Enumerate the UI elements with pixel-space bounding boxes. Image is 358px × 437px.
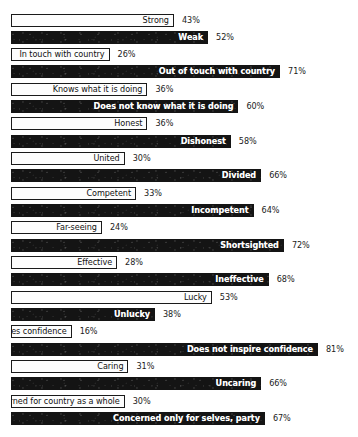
bar-value-label: 16% — [80, 326, 98, 337]
bar-value-label: 58% — [239, 136, 257, 147]
bar-value-label: 71% — [288, 66, 306, 77]
bar-label: Uncaring — [216, 379, 262, 388]
chart-row: Lucky53% — [0, 291, 358, 304]
chart-row: Strong43% — [0, 14, 358, 27]
bar-value-label: 66% — [269, 378, 287, 389]
chart-row: Caring31% — [0, 360, 358, 373]
bar-value-label: 30% — [133, 153, 151, 164]
chart-row: Effective28% — [0, 256, 358, 269]
bar-value-label: 60% — [246, 101, 264, 112]
bar-caring: Caring — [11, 360, 128, 373]
chart-row: Incompetent64% — [0, 204, 358, 217]
bar-value-label: 26% — [118, 49, 136, 60]
bar-inspires-confidence: Inspires confidence — [11, 325, 72, 338]
bar-does-not-inspire-confidence: Does not inspire confidence — [11, 343, 318, 356]
bar-label: Incompetent — [191, 206, 253, 215]
bar-label: United — [93, 154, 123, 163]
bar-label: Inspires confidence — [11, 327, 71, 336]
bar-does-not-know-what-it-is-doing: Does not know what it is doing — [11, 100, 238, 113]
bar-value-label: 24% — [110, 222, 128, 233]
bar-value-label: 68% — [277, 274, 295, 285]
bar-value-label: 66% — [269, 170, 287, 181]
bar-value-label: 31% — [136, 361, 154, 372]
chart-row: Competent33% — [0, 187, 358, 200]
chart-row: Dishonest58% — [0, 135, 358, 148]
bar-incompetent: Incompetent — [11, 204, 254, 217]
chart-row: Does not inspire confidence81% — [0, 343, 358, 356]
bar-label: Effective — [77, 258, 116, 267]
bar-value-label: 52% — [216, 32, 234, 43]
bar-value-label: 53% — [220, 292, 238, 303]
bar-label: In touch with country — [19, 50, 108, 59]
chart-row: Shortsighted72% — [0, 239, 358, 252]
bar-concerned-for-country-as-a-whole: Concerned for country as a whole — [11, 395, 125, 408]
bar-value-label: 72% — [292, 240, 310, 251]
bar-label: Does not inspire confidence — [187, 345, 318, 354]
bar-label: Far-seeing — [56, 223, 101, 232]
bar-label: Divided — [222, 171, 261, 180]
chart-row: Honest36% — [0, 117, 358, 130]
bar-unlucky: Unlucky — [11, 308, 155, 321]
bar-label: Out of touch with country — [159, 67, 280, 76]
bar-label: Ineffective — [215, 275, 268, 284]
bar-lucky: Lucky — [11, 291, 212, 304]
bar-label: Knows what it is doing — [53, 85, 147, 94]
bar-value-label: 81% — [326, 344, 344, 355]
chart-row: In touch with country26% — [0, 48, 358, 61]
bar-label: Dishonest — [181, 137, 231, 146]
chart-row: Concerned only for selves, party67% — [0, 412, 358, 425]
chart-row: Concerned for country as a whole30% — [0, 395, 358, 408]
chart-row: Out of touch with country71% — [0, 65, 358, 78]
bar-weak: Weak — [11, 31, 208, 44]
bar-label: Lucky — [184, 293, 211, 302]
bar-value-label: 64% — [262, 205, 280, 216]
chart-row: Unlucky38% — [0, 308, 358, 321]
bar-value-label: 38% — [163, 309, 181, 320]
chart-row: Inspires confidence16% — [0, 325, 358, 338]
chart-row: Weak52% — [0, 31, 358, 44]
bar-competent: Competent — [11, 187, 136, 200]
bar-label: Concerned only for selves, party — [113, 414, 265, 423]
survey-bar-chart: Strong43%Weak52%In touch with country26%… — [0, 0, 358, 437]
bar-divided: Divided — [11, 169, 261, 182]
bar-label: Competent — [86, 189, 135, 198]
bar-shortsighted: Shortsighted — [11, 239, 284, 252]
bar-knows-what-it-is-doing: Knows what it is doing — [11, 83, 147, 96]
chart-row: Ineffective68% — [0, 273, 358, 286]
bar-label: Concerned for country as a whole — [11, 397, 124, 406]
bar-effective: Effective — [11, 256, 117, 269]
bar-far-seeing: Far-seeing — [11, 221, 102, 234]
bar-label: Caring — [97, 362, 127, 371]
bar-label: Shortsighted — [220, 241, 284, 250]
bar-value-label: 43% — [182, 15, 200, 26]
chart-row: Uncaring66% — [0, 377, 358, 390]
bar-label: Weak — [178, 33, 208, 42]
bar-out-of-touch-with-country: Out of touch with country — [11, 65, 280, 78]
bar-value-label: 33% — [144, 188, 162, 199]
chart-row: Divided66% — [0, 169, 358, 182]
chart-row: Far-seeing24% — [0, 221, 358, 234]
bar-label: Strong — [143, 16, 173, 25]
chart-row: Does not know what it is doing60% — [0, 100, 358, 113]
bar-value-label: 30% — [133, 396, 151, 407]
bar-honest: Honest — [11, 117, 147, 130]
bar-label: Honest — [114, 119, 146, 128]
bar-dishonest: Dishonest — [11, 135, 231, 148]
bar-uncaring: Uncaring — [11, 377, 261, 390]
bar-value-label: 36% — [155, 118, 173, 129]
bar-strong: Strong — [11, 14, 174, 27]
chart-row: United30% — [0, 152, 358, 165]
bar-label: Unlucky — [114, 310, 155, 319]
bar-value-label: 28% — [125, 257, 143, 268]
bar-label: Does not know what it is doing — [94, 102, 239, 111]
bar-concerned-only-for-selves-party: Concerned only for selves, party — [11, 412, 265, 425]
chart-row: Knows what it is doing36% — [0, 83, 358, 96]
bar-in-touch-with-country: In touch with country — [11, 48, 110, 61]
bar-united: United — [11, 152, 125, 165]
bar-value-label: 36% — [155, 84, 173, 95]
bar-ineffective: Ineffective — [11, 273, 269, 286]
bar-value-label: 67% — [273, 413, 291, 424]
